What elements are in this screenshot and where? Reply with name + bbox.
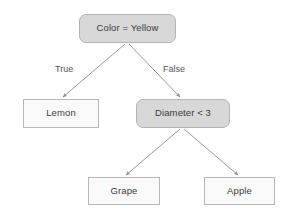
node-label: Lemon — [46, 108, 76, 118]
edge-label-false: False — [163, 64, 185, 74]
decision-tree-diagram: Color = Yellow Lemon Diameter < 3 Grape … — [0, 0, 292, 220]
node-leaf-apple[interactable]: Apple — [204, 177, 275, 205]
node-leaf-grape[interactable]: Grape — [88, 177, 160, 205]
node-label: Color = Yellow — [97, 23, 159, 33]
node-label: Apple — [227, 186, 252, 196]
node-label: Diameter < 3 — [155, 108, 211, 118]
edge-diameter-left — [126, 129, 180, 175]
node-leaf-lemon[interactable]: Lemon — [23, 99, 99, 128]
node-root-color-yellow[interactable]: Color = Yellow — [79, 14, 176, 43]
edge-diameter-right — [184, 129, 238, 175]
node-decision-diameter[interactable]: Diameter < 3 — [136, 99, 230, 128]
node-label: Grape — [111, 186, 138, 196]
edge-label-true: True — [55, 64, 73, 74]
